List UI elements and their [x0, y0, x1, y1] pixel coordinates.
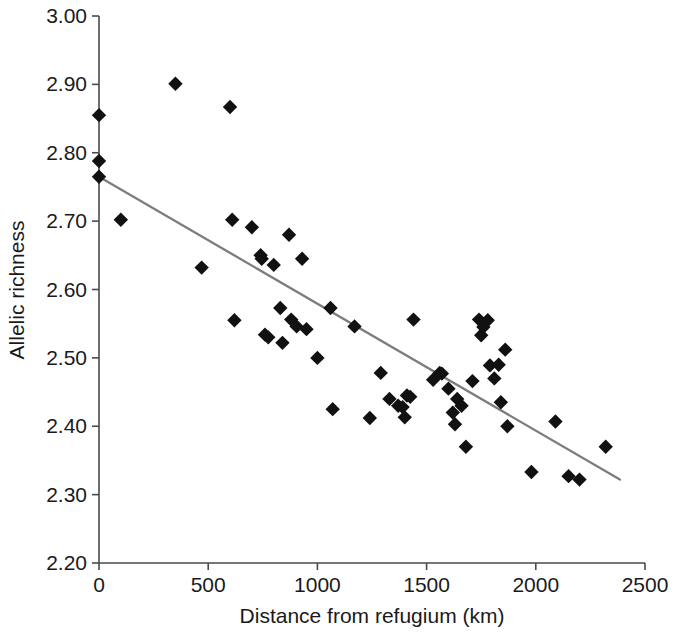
x-tick-label: 1000 — [294, 573, 341, 596]
data-point — [194, 260, 208, 274]
y-tick-label: 2.70 — [46, 209, 87, 232]
x-axis-ticks — [99, 563, 645, 570]
data-point — [524, 465, 538, 479]
data-point — [225, 213, 239, 227]
data-point — [374, 366, 388, 380]
y-axis-tick-labels: 2.202.302.402.502.602.702.802.903.00 — [46, 4, 87, 574]
data-point — [114, 213, 128, 227]
data-point — [295, 252, 309, 266]
data-point — [561, 469, 575, 483]
y-axis-title: Allelic richness — [5, 221, 28, 360]
x-tick-label: 500 — [191, 573, 226, 596]
data-point — [275, 336, 289, 350]
data-point — [459, 440, 473, 454]
data-point — [548, 414, 562, 428]
y-tick-label: 2.20 — [46, 551, 87, 574]
data-point — [448, 417, 462, 431]
data-point — [168, 76, 182, 90]
scatter-chart: 2.202.302.402.502.602.702.802.903.00 050… — [0, 0, 675, 636]
data-point — [282, 228, 296, 242]
x-tick-label: 0 — [93, 573, 105, 596]
data-point — [406, 312, 420, 326]
data-point — [498, 342, 512, 356]
data-point — [491, 358, 505, 372]
x-tick-label: 1500 — [403, 573, 450, 596]
y-tick-label: 2.50 — [46, 346, 87, 369]
data-point — [363, 411, 377, 425]
data-point — [598, 440, 612, 454]
x-axis-title: Distance from refugium (km) — [240, 604, 505, 627]
y-tick-label: 2.90 — [46, 72, 87, 95]
y-tick-label: 2.40 — [46, 414, 87, 437]
data-point — [273, 301, 287, 315]
data-point — [92, 169, 106, 183]
data-point — [325, 402, 339, 416]
data-point — [92, 108, 106, 122]
data-point — [398, 410, 412, 424]
y-tick-label: 3.00 — [46, 4, 87, 27]
data-point — [223, 100, 237, 114]
y-tick-label: 2.30 — [46, 483, 87, 506]
y-tick-label: 2.60 — [46, 278, 87, 301]
data-point-markers — [92, 76, 613, 486]
data-point — [465, 374, 479, 388]
data-point — [310, 351, 324, 365]
chart-canvas: 2.202.302.402.502.602.702.802.903.00 050… — [0, 0, 675, 636]
data-point — [267, 258, 281, 272]
data-point — [500, 419, 514, 433]
data-point — [487, 371, 501, 385]
data-point — [572, 472, 586, 486]
x-axis-tick-labels: 05001000150020002500 — [93, 573, 668, 596]
data-point — [92, 154, 106, 168]
data-point — [245, 220, 259, 234]
data-point — [227, 313, 241, 327]
x-tick-label: 2500 — [622, 573, 669, 596]
x-tick-label: 2000 — [512, 573, 559, 596]
y-axis-ticks — [92, 16, 99, 563]
y-tick-label: 2.80 — [46, 141, 87, 164]
